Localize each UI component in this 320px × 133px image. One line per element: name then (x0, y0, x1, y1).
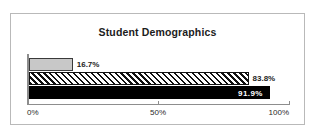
x-axis-tick (158, 101, 159, 105)
bar-value-label: 16.7% (73, 58, 100, 71)
bar-value-label: 91.9% (238, 87, 263, 100)
chart-frame: Student Demographics 16.7% 83.8% 91.9% 0… (10, 13, 305, 125)
bar-series-1[interactable] (29, 58, 73, 71)
bar-series-3[interactable]: 91.9% (29, 86, 270, 99)
bar-series-2[interactable] (29, 72, 249, 85)
x-axis-tick (27, 101, 28, 105)
x-axis-tick-label: 0% (27, 108, 39, 117)
x-axis-tick-label: 100% (269, 108, 289, 117)
bar-value-label: 83.8% (249, 72, 276, 85)
x-axis-tick-label: 50% (150, 108, 166, 117)
chart-title: Student Demographics (11, 26, 304, 38)
plot-area: 16.7% 83.8% 91.9% 0% 50% 100% (27, 54, 289, 104)
x-axis-tick (289, 101, 290, 105)
